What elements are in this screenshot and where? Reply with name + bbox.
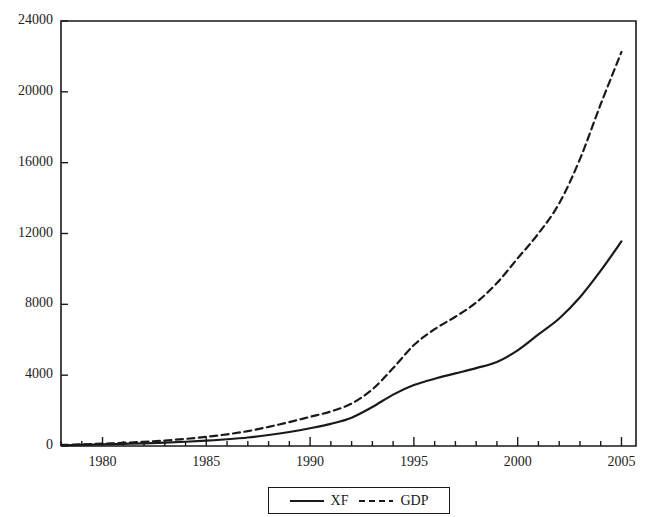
- y-axis-tick-label: 16000: [18, 154, 53, 170]
- line-chart-plot: [0, 0, 655, 517]
- x-axis-tick-label: 2005: [581, 454, 655, 470]
- chart-legend: XF GDP: [268, 487, 450, 514]
- x-axis-tick-label: 1985: [166, 454, 246, 470]
- x-axis-tick-label: 1990: [270, 454, 350, 470]
- legend-label-gdp: GDP: [400, 493, 428, 509]
- x-axis-tick-label: 2000: [478, 454, 558, 470]
- legend-item-gdp: GDP: [359, 493, 428, 509]
- y-axis-tick-label: 4000: [25, 366, 53, 382]
- y-axis-tick-label: 0: [46, 437, 53, 453]
- x-axis-tick-label: 1980: [63, 454, 143, 470]
- legend-swatch-solid-icon: [290, 496, 324, 506]
- x-axis-tick-label: 1995: [374, 454, 454, 470]
- series-line-xf: [61, 241, 621, 445]
- y-axis-tick-label: 24000: [18, 12, 53, 28]
- y-axis-tick-label: 20000: [18, 83, 53, 99]
- y-axis-tick-label: 8000: [25, 295, 53, 311]
- chart-figure: XF GDP 040008000120001600020000240001980…: [0, 0, 655, 517]
- legend-label-xf: XF: [331, 493, 349, 509]
- legend-item-xf: XF: [290, 493, 349, 509]
- legend-swatch-dashed-icon: [359, 496, 393, 506]
- y-axis-tick-label: 12000: [18, 225, 53, 241]
- series-line-gdp: [61, 52, 621, 445]
